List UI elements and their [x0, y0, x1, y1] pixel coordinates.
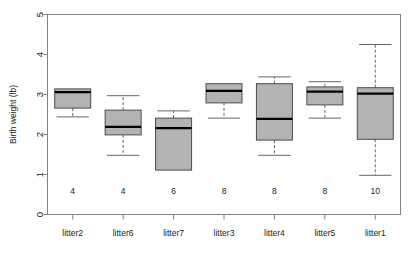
x-category-label: litter7 — [163, 228, 184, 238]
group-count-label: 4 — [121, 186, 126, 196]
group-count-label: 6 — [171, 186, 176, 196]
group-count-label: 8 — [222, 186, 227, 196]
group-count-label: 8 — [272, 186, 277, 196]
boxplot-chart: 012345Birth weight (lb)44688810litter2li… — [0, 0, 408, 253]
box-group — [156, 111, 192, 170]
y-tick-label: 0 — [34, 212, 45, 217]
box-group — [206, 84, 242, 118]
x-category-label: litter5 — [314, 228, 335, 238]
box-group — [256, 77, 292, 155]
x-category-label: litter6 — [113, 228, 134, 238]
box-rect — [206, 84, 242, 103]
box-rect — [256, 84, 292, 140]
box-group — [105, 96, 141, 156]
box-group — [307, 82, 343, 118]
y-tick-label: 4 — [34, 52, 45, 57]
box-group — [55, 89, 91, 117]
y-tick-label: 2 — [34, 132, 45, 137]
box-rect — [307, 87, 343, 105]
box-rect — [156, 118, 192, 170]
box-rect — [357, 88, 393, 140]
y-tick-label: 5 — [34, 12, 45, 17]
y-axis-title: Birth weight (lb) — [8, 85, 18, 144]
y-tick-label: 3 — [34, 92, 45, 97]
x-category-label: litter2 — [62, 228, 83, 238]
box-group — [357, 45, 393, 176]
box-rect — [105, 110, 141, 135]
x-category-label: litter4 — [264, 228, 285, 238]
x-category-label: litter1 — [365, 228, 386, 238]
y-tick-label: 1 — [34, 172, 45, 177]
group-count-label: 8 — [322, 186, 327, 196]
plot-area: 012345Birth weight (lb)44688810litter2li… — [0, 0, 408, 253]
x-category-label: litter3 — [214, 228, 235, 238]
group-count-label: 4 — [70, 186, 75, 196]
group-count-label: 10 — [371, 186, 381, 196]
